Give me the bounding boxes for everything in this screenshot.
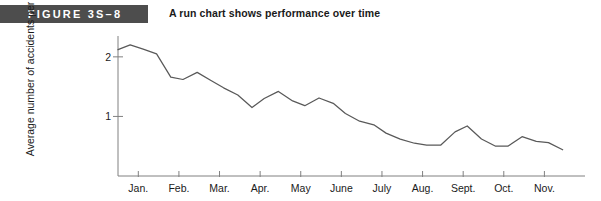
x-axis-tick-label: May — [291, 182, 311, 194]
x-axis-tick-label: June — [330, 182, 353, 194]
x-axis-tick-label: Aug. — [412, 182, 434, 194]
figure-container: FIGURE 3S–8 A run chart shows performanc… — [0, 0, 601, 201]
chart-svg — [0, 0, 601, 201]
x-axis-tick-label: Feb. — [168, 182, 189, 194]
x-axis-tick-label: Jan. — [128, 182, 148, 194]
y-axis-tick-label: 1 — [95, 110, 111, 122]
data-series-line — [118, 45, 563, 150]
x-axis-tick-label: Sept. — [451, 182, 476, 194]
x-axis-tick-label: July — [373, 182, 392, 194]
x-axis-tick-label: Oct. — [494, 182, 513, 194]
x-axis-tick-label: Apr. — [251, 182, 270, 194]
x-axis-tick-label: Mar. — [209, 182, 229, 194]
y-axis-tick-label: 2 — [95, 51, 111, 63]
run-chart: Average number of accidents per day 12 J… — [0, 0, 601, 201]
x-axis-tick-label: Nov. — [534, 182, 555, 194]
